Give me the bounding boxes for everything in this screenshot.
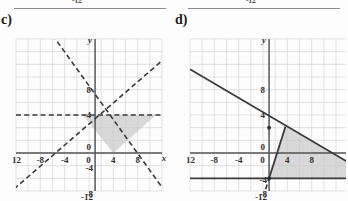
panel-c-cut-label: -12: [72, 0, 82, 5]
panel-c-ytick--12: -12: [81, 192, 93, 201]
panel-d: -12 d): [174, 0, 348, 201]
panel-d-xtick-0: 0: [260, 155, 265, 165]
panel-c-ytick-8: 8: [87, 85, 92, 95]
panel-c-xtick--12: -12: [12, 155, 21, 165]
panel-d-plot: -12 -8 -4 0 4 8 8 4 0 -4 -8 y -: [186, 34, 346, 199]
panel-d-letter: d): [175, 12, 187, 28]
panel-d-xtick--4: -4: [235, 155, 243, 165]
panel-d-ytick-4: 4: [261, 110, 266, 120]
panel-d-xtick-4: 4: [285, 155, 290, 165]
panel-c-xtick-8: 8: [135, 155, 140, 165]
panel-d-ytick-8: 8: [261, 85, 266, 95]
panel-d-top-cutoff-strip: -12: [174, 0, 348, 11]
panel-d-ytick--12: -12: [255, 192, 267, 201]
panel-c-xtick--4: -4: [61, 155, 69, 165]
panel-c-ytick-0: 0: [87, 142, 92, 152]
panel-d-lower-vertex-marker: [267, 176, 271, 180]
panel-d-xtick--12: -12: [186, 155, 195, 165]
panel-c-x-axis-label: x: [161, 153, 167, 163]
panel-c-ytick-4: 4: [87, 110, 92, 120]
panel-c-xtick--8: -8: [37, 155, 45, 165]
panel-d-svg: -12 -8 -4 0 4 8 8 4 0 -4 -8 y: [186, 34, 346, 199]
panel-d-ytick-0: 0: [261, 142, 266, 152]
panel-c: -12 c): [0, 0, 174, 201]
panel-d-y-intercept-marker: [267, 126, 271, 130]
panel-c-cut-rule: [14, 8, 166, 9]
panel-d-ytick--4: -4: [260, 175, 268, 185]
panel-d-cut-rule: [188, 8, 340, 9]
panel-d-xtick--8: -8: [211, 155, 219, 165]
panel-c-plot: -12 -8 -4 0 4 8 x 8 4 0 -4 -8 y: [12, 34, 172, 199]
panel-c-top-cutoff-strip: -12: [0, 0, 174, 11]
panel-c-svg: -12 -8 -4 0 4 8 x 8 4 0 -4 -8 y: [12, 34, 172, 199]
panel-d-xtick-8: 8: [309, 155, 314, 165]
panel-c-letter: c): [1, 12, 12, 28]
panel-c-ytick--4: -4: [86, 163, 94, 173]
panel-c-xtick-4: 4: [111, 155, 116, 165]
graph-figure-page: -12 c): [0, 0, 348, 201]
panel-d-cut-label: -12: [246, 0, 256, 5]
